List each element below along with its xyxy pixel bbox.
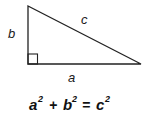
formula-a: a bbox=[29, 96, 37, 113]
formula-c: c bbox=[96, 96, 105, 113]
formula-c-exponent: 2 bbox=[104, 94, 110, 104]
side-label-a: a bbox=[68, 70, 75, 85]
side-label-c: c bbox=[81, 12, 88, 27]
formula-equals: = bbox=[82, 97, 90, 113]
pythagorean-formula: a 2 + b 2 = c 2 bbox=[29, 94, 110, 113]
formula-b-exponent: 2 bbox=[71, 94, 77, 104]
side-label-b: b bbox=[8, 26, 15, 41]
formula-a-exponent: 2 bbox=[37, 94, 43, 104]
right-angle-marker bbox=[28, 54, 38, 64]
formula-plus: + bbox=[49, 97, 57, 113]
formula-b: b bbox=[63, 96, 72, 113]
pythagorean-diagram: b c a a 2 + b 2 = c 2 bbox=[0, 0, 148, 117]
